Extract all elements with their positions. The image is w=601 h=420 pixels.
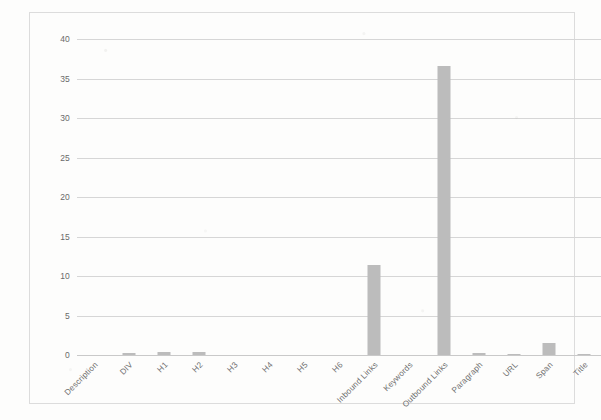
x-tick-label: H4 bbox=[261, 361, 274, 374]
x-tick-label: H3 bbox=[226, 361, 239, 374]
bar[interactable] bbox=[123, 353, 136, 355]
bar-slot bbox=[112, 39, 147, 355]
bar-slot bbox=[287, 39, 322, 355]
bar-slot bbox=[426, 39, 461, 355]
bar-slot bbox=[252, 39, 287, 355]
y-tick-label-35: 35 bbox=[60, 74, 70, 84]
x-tick-label: H1 bbox=[157, 361, 170, 374]
x-tick-label: DIV bbox=[119, 361, 135, 377]
x-label-slot: H2 bbox=[182, 359, 217, 419]
x-label-slot: Title bbox=[566, 359, 601, 419]
bar-slot bbox=[322, 39, 357, 355]
x-label-slot: URL bbox=[496, 359, 531, 419]
bar-slot bbox=[217, 39, 252, 355]
bar-slot bbox=[531, 39, 566, 355]
bar-slot bbox=[391, 39, 426, 355]
bar[interactable] bbox=[158, 352, 171, 355]
gridline-0 bbox=[77, 355, 601, 356]
bar-slot bbox=[496, 39, 531, 355]
bar[interactable] bbox=[367, 265, 380, 355]
x-label-slot: H4 bbox=[252, 359, 287, 419]
x-label-slot: Span bbox=[531, 359, 566, 419]
x-tick-label: H6 bbox=[331, 361, 344, 374]
bar[interactable] bbox=[577, 354, 590, 356]
x-label-slot: Description bbox=[77, 359, 112, 419]
x-label-slot: H3 bbox=[217, 359, 252, 419]
bar-slot bbox=[182, 39, 217, 355]
bar[interactable] bbox=[507, 354, 520, 356]
y-tick-label-40: 40 bbox=[60, 34, 70, 44]
y-tick-label-5: 5 bbox=[65, 311, 70, 321]
plot-area: 0510152025303540 bbox=[77, 39, 601, 355]
bar[interactable] bbox=[542, 343, 555, 355]
y-tick-label-0: 0 bbox=[65, 350, 70, 360]
bar[interactable] bbox=[472, 353, 485, 355]
x-tick-label: H5 bbox=[296, 361, 309, 374]
bar-slot bbox=[356, 39, 391, 355]
y-tick-label-25: 25 bbox=[60, 153, 70, 163]
x-label-slot: DIV bbox=[112, 359, 147, 419]
x-tick-label: Description bbox=[64, 361, 100, 397]
bar[interactable] bbox=[437, 66, 450, 355]
x-axis-category-labels: DescriptionDIVH1H2H3H4H5H6Inbound LinksK… bbox=[77, 359, 601, 419]
y-tick-label-20: 20 bbox=[60, 192, 70, 202]
x-label-slot: H1 bbox=[147, 359, 182, 419]
y-tick-label-10: 10 bbox=[60, 271, 70, 281]
x-tick-label: H2 bbox=[192, 361, 205, 374]
y-tick-label-30: 30 bbox=[60, 113, 70, 123]
bar-series bbox=[77, 39, 601, 355]
x-label-slot: H5 bbox=[287, 359, 322, 419]
bar-slot bbox=[147, 39, 182, 355]
y-tick-label-15: 15 bbox=[60, 232, 70, 242]
x-tick-label: Span bbox=[534, 361, 554, 381]
bar-slot bbox=[77, 39, 112, 355]
bar-slot bbox=[566, 39, 601, 355]
bar[interactable] bbox=[193, 352, 206, 355]
x-label-slot: Paragraph bbox=[461, 359, 496, 419]
x-tick-label: Title bbox=[572, 361, 589, 378]
x-tick-label: URL bbox=[502, 361, 520, 379]
chart-frame: 0510152025303540 DescriptionDIVH1H2H3H4H… bbox=[29, 12, 575, 404]
bar-slot bbox=[461, 39, 496, 355]
